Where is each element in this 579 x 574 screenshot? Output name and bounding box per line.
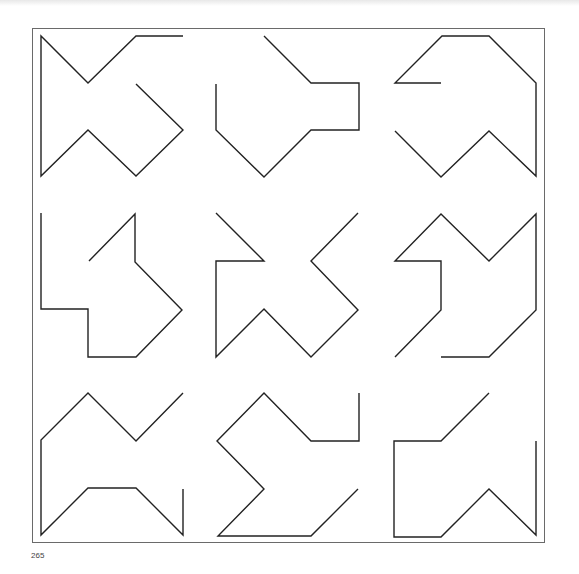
- figure-r1c3: [395, 36, 536, 177]
- figure-r1c1: [41, 36, 183, 176]
- figure-grid: [0, 0, 579, 574]
- figure-r2c3: [395, 214, 536, 357]
- figure-r2c2: [216, 213, 358, 357]
- figure-r1c2: [216, 36, 359, 177]
- figure-r3c3: [394, 393, 536, 537]
- figure-r3c1: [41, 393, 183, 535]
- figure-r2c1: [41, 213, 182, 357]
- figure-r3c2: [217, 393, 359, 536]
- page-number: 265: [31, 551, 44, 560]
